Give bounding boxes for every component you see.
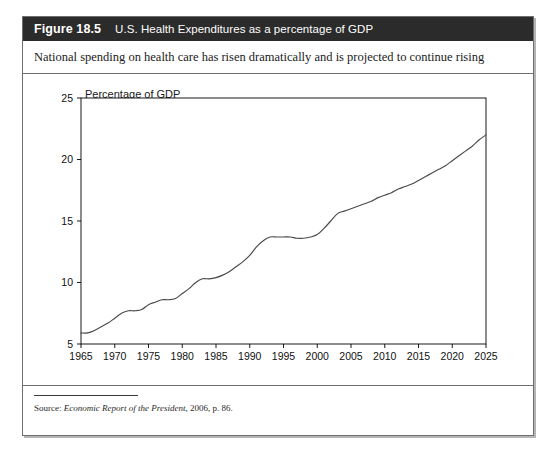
source-divider xyxy=(34,395,138,396)
svg-text:15: 15 xyxy=(61,215,73,227)
figure-header: Figure 18.5 U.S. Health Expenditures as … xyxy=(23,17,533,41)
svg-text:2020: 2020 xyxy=(441,350,465,362)
source-title: Economic Report of the President xyxy=(64,403,186,413)
svg-text:5: 5 xyxy=(67,338,73,350)
svg-text:2010: 2010 xyxy=(373,350,397,362)
svg-text:2005: 2005 xyxy=(339,350,363,362)
svg-text:1970: 1970 xyxy=(103,350,127,362)
figure-subtitle-row: National spending on health care has ris… xyxy=(23,41,533,74)
figure-frame: Figure 18.5 U.S. Health Expenditures as … xyxy=(22,16,534,436)
svg-text:20: 20 xyxy=(61,153,73,165)
svg-text:2025: 2025 xyxy=(474,350,498,362)
source-prefix: Source: xyxy=(34,403,64,413)
source-suffix: , 2006, p. 86. xyxy=(185,403,232,413)
chart-area: Percentage of GDP 5101520251965197019751… xyxy=(23,74,533,386)
svg-text:1995: 1995 xyxy=(272,350,296,362)
svg-text:25: 25 xyxy=(61,92,73,104)
svg-text:1980: 1980 xyxy=(171,350,195,362)
svg-text:2015: 2015 xyxy=(407,350,431,362)
svg-text:1985: 1985 xyxy=(204,350,228,362)
figure-number: Figure 18.5 xyxy=(34,22,101,36)
svg-text:2000: 2000 xyxy=(306,350,330,362)
svg-text:1975: 1975 xyxy=(137,350,161,362)
line-chart: 5101520251965197019751980198519901995200… xyxy=(23,74,533,386)
svg-text:1990: 1990 xyxy=(238,350,262,362)
figure-source-row: Source: Economic Report of the President… xyxy=(23,385,533,435)
svg-text:10: 10 xyxy=(61,276,73,288)
figure-source: Source: Economic Report of the President… xyxy=(34,403,233,413)
figure-subtitle: National spending on health care has ris… xyxy=(34,50,484,65)
figure-title: U.S. Health Expenditures as a percentage… xyxy=(115,23,373,35)
svg-text:1965: 1965 xyxy=(69,350,93,362)
